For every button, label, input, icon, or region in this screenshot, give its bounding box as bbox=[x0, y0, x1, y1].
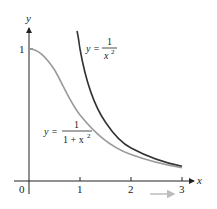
svg-text:y =: y = bbox=[43, 126, 58, 137]
svg-text:1: 1 bbox=[107, 36, 112, 47]
y-axis-label: y bbox=[25, 12, 31, 24]
svg-text:2: 2 bbox=[111, 48, 115, 56]
svg-text:1: 1 bbox=[74, 119, 79, 130]
x-tick-label-2: 2 bbox=[128, 183, 134, 195]
svg-text:1 + x: 1 + x bbox=[63, 134, 84, 145]
function-graph: 0 1 2 3 1 x y y = 1 x 2 y = 1 1 + x 2 bbox=[0, 0, 217, 209]
x-tick-label-1: 1 bbox=[77, 183, 83, 195]
label-one-over-one-plus-x-squared: y = 1 1 + x 2 bbox=[43, 119, 92, 145]
origin-label: 0 bbox=[19, 183, 25, 195]
y-tick-label-1: 1 bbox=[19, 43, 25, 55]
svg-text:y =: y = bbox=[85, 43, 100, 54]
x-tick-label-3: 3 bbox=[179, 183, 185, 195]
curve-one-over-one-plus-x-squared bbox=[29, 49, 182, 168]
graph-canvas: 0 1 2 3 1 x y y = 1 x 2 y = 1 1 + x 2 bbox=[0, 0, 217, 209]
x-axis-label: x bbox=[196, 174, 202, 186]
svg-text:2: 2 bbox=[87, 132, 91, 140]
svg-text:x: x bbox=[103, 50, 109, 61]
label-one-over-x-squared: y = 1 x 2 bbox=[85, 36, 117, 61]
